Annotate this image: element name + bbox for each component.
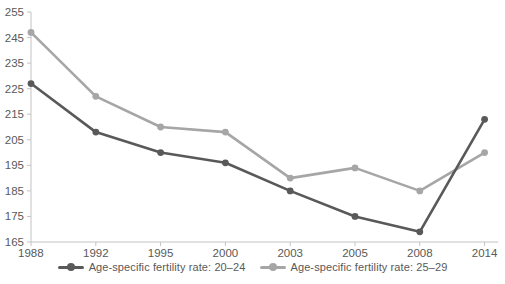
x-tick-label: 2008 bbox=[407, 247, 433, 259]
data-point-25-29 bbox=[92, 93, 99, 100]
x-tick-label: 1995 bbox=[148, 247, 174, 259]
data-point-25-29 bbox=[416, 187, 423, 194]
x-tick-label: 1988 bbox=[18, 247, 44, 259]
y-tick-label: 215 bbox=[5, 108, 24, 120]
data-point-20-24 bbox=[481, 116, 488, 123]
data-point-20-24 bbox=[92, 129, 99, 136]
y-tick-label: 175 bbox=[5, 210, 24, 222]
legend-item-20-24: Age-specific fertility rate: 20–24 bbox=[58, 261, 246, 273]
data-point-20-24 bbox=[287, 187, 294, 194]
fertility-rate-chart: 1651751851952052152252352452551988199219… bbox=[0, 0, 505, 284]
data-point-25-29 bbox=[28, 29, 35, 36]
data-point-20-24 bbox=[28, 80, 35, 87]
data-point-25-29 bbox=[157, 124, 164, 131]
x-tick-label: 1992 bbox=[83, 247, 109, 259]
data-point-25-29 bbox=[481, 149, 488, 156]
series-line-20-24 bbox=[31, 84, 485, 232]
legend-marker-25-29-icon bbox=[260, 263, 286, 272]
legend-label-20-24: Age-specific fertility rate: 20–24 bbox=[89, 261, 246, 273]
y-tick-label: 245 bbox=[5, 32, 24, 44]
data-point-25-29 bbox=[287, 175, 294, 182]
legend-label-25-29: Age-specific fertility rate: 25–29 bbox=[291, 261, 448, 273]
data-point-25-29 bbox=[352, 164, 359, 171]
x-tick-label: 2005 bbox=[342, 247, 368, 259]
data-point-20-24 bbox=[416, 228, 423, 235]
legend-marker-20-24-icon bbox=[58, 263, 84, 272]
y-tick-label: 255 bbox=[5, 6, 24, 18]
data-point-25-29 bbox=[222, 129, 229, 136]
series-line-25-29 bbox=[31, 32, 485, 190]
y-tick-label: 205 bbox=[5, 134, 24, 146]
legend-item-25-29: Age-specific fertility rate: 25–29 bbox=[260, 261, 448, 273]
y-tick-label: 195 bbox=[5, 159, 24, 171]
data-point-20-24 bbox=[157, 149, 164, 156]
data-point-20-24 bbox=[222, 159, 229, 166]
y-tick-label: 225 bbox=[5, 83, 24, 95]
line-chart-canvas: 1651751851952052152252352452551988199219… bbox=[0, 0, 505, 284]
data-point-20-24 bbox=[352, 213, 359, 220]
chart-legend: Age-specific fertility rate: 20–24 Age-s… bbox=[0, 261, 505, 273]
x-tick-label: 2014 bbox=[472, 247, 498, 259]
y-tick-label: 235 bbox=[5, 57, 24, 69]
x-tick-label: 2000 bbox=[213, 247, 239, 259]
x-tick-label: 2003 bbox=[277, 247, 303, 259]
y-tick-label: 185 bbox=[5, 185, 24, 197]
